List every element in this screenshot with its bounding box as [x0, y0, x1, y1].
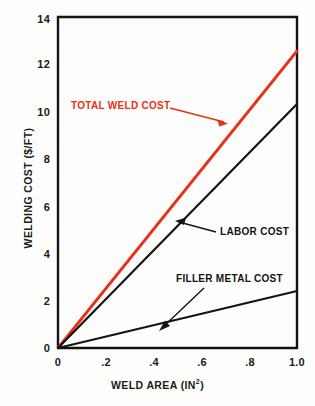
x-tick-label: .4	[134, 356, 174, 368]
y-tick-label: 2	[18, 295, 50, 307]
series-line-filler-metal-cost	[58, 291, 297, 348]
annotation-arrow-filler-metal-cost	[159, 288, 204, 331]
annotation-label-labor-cost: LABOR COST	[220, 226, 289, 237]
x-axis-title: WELD AREA (IN2)	[0, 378, 315, 391]
annotation-arrow-labor-cost	[175, 218, 216, 233]
x-tick-label: .6	[182, 356, 222, 368]
welding-cost-chart: 0 2 4 6 8 10 12 14 0 .2 .4 .6 .8 1.0 WEL…	[0, 0, 315, 406]
y-axis-title: WELDING COST ($/FT)	[22, 108, 34, 268]
series-line-total-weld-cost	[58, 51, 297, 348]
x-tick-label: 1.0	[277, 356, 315, 368]
axis-frame	[58, 17, 297, 348]
annotation-label-filler-metal-cost: FILLER METAL COST	[176, 273, 283, 284]
x-axis-title-close: )	[200, 379, 204, 391]
annotation-label-total-weld-cost: TOTAL WELD COST	[71, 100, 171, 111]
y-tick-label: 14	[18, 13, 50, 25]
x-tick-label: .2	[86, 356, 126, 368]
x-tick-label: .8	[230, 356, 270, 368]
x-axis-title-main: WELD AREA (IN	[111, 379, 196, 391]
annotation-arrow-total-weld-cost	[170, 108, 228, 127]
y-tick-label: 12	[18, 58, 50, 70]
y-tick-label: 0	[18, 342, 50, 354]
x-tick-label: 0	[38, 356, 78, 368]
